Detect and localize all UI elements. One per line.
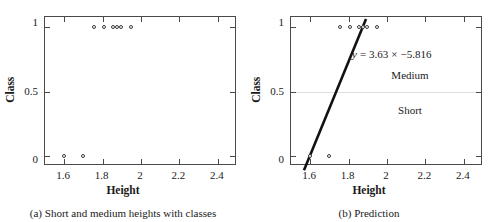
plot-area-b: y=3.63×−5.816 Medium Short <box>290 16 482 165</box>
x-tick-label-a-5: 2.4 <box>210 170 224 181</box>
x-tick-top-a-5 <box>218 17 219 22</box>
y-tick-right-a-05 <box>230 92 235 93</box>
panel-a: Class 1 0.5 0 <box>0 0 246 222</box>
x-tick-top-a-2 <box>103 17 104 22</box>
equation-times: × <box>391 48 397 60</box>
data-point <box>327 154 331 158</box>
x-tick-label-a-3: 2 <box>137 170 143 181</box>
x-tick-label-b-4: 2.2 <box>418 170 432 181</box>
data-point <box>92 25 96 29</box>
regression-line <box>304 19 366 170</box>
panel-b: Class 1 0.5 0 <box>246 0 492 222</box>
region-label-medium: Medium <box>391 70 428 81</box>
y-tick-right-a-1 <box>230 27 235 28</box>
x-tick-label-a-1: 1.6 <box>56 170 70 181</box>
y-tick-a-05 <box>45 92 50 93</box>
x-tick-a-1 <box>64 159 65 164</box>
y-tick-label-a-1: 1 <box>20 17 38 28</box>
x-tick-top-a-3 <box>141 17 142 22</box>
regression-line-svg <box>291 17 481 164</box>
y-tick-a-1 <box>45 27 50 28</box>
panel-b-caption: (b) Prediction <box>246 208 492 219</box>
equation-variable: y <box>352 48 357 60</box>
y-tick-right-a-0 <box>230 156 235 157</box>
x-tick-top-a-4 <box>179 17 180 22</box>
x-tick-a-3 <box>141 159 142 164</box>
y-tick-a-0 <box>45 156 50 157</box>
data-point <box>375 25 379 29</box>
x-tick-label-a-2: 1.8 <box>95 170 109 181</box>
x-tick-a-4 <box>179 159 180 164</box>
regression-equation-label: y=3.63×−5.816 <box>352 49 432 60</box>
figure-container: Class 1 0.5 0 <box>0 0 492 222</box>
data-point <box>62 154 66 158</box>
y-tick-label-b-1: 1 <box>266 17 284 28</box>
x-tick-label-b-1: 1.6 <box>302 170 316 181</box>
data-point <box>308 154 312 158</box>
x-tick-label-b-2: 1.8 <box>341 170 355 181</box>
data-point <box>81 154 85 158</box>
x-tick-label-b-5: 2.4 <box>456 170 470 181</box>
x-tick-label-a-4: 2.2 <box>172 170 186 181</box>
x-axis-title-b: Height <box>246 185 492 197</box>
data-point <box>119 25 123 29</box>
y-tick-label-a-05: 0.5 <box>14 85 38 96</box>
y-tick-label-b-05: 0.5 <box>260 85 284 96</box>
data-point <box>348 25 352 29</box>
y-tick-label-a-0: 0 <box>20 154 38 165</box>
x-tick-label-b-3: 2 <box>383 170 389 181</box>
y-tick-label-b-0: 0 <box>266 154 284 165</box>
data-point <box>129 25 133 29</box>
data-point <box>102 25 106 29</box>
equation-equals: = <box>360 48 366 60</box>
x-tick-a-2 <box>103 159 104 164</box>
x-tick-top-a-1 <box>64 17 65 22</box>
data-point <box>365 25 369 29</box>
plot-area-a <box>44 16 236 165</box>
equation-slope: 3.63 <box>369 48 388 60</box>
x-axis-title-a: Height <box>0 185 246 197</box>
panel-a-caption: (a) Short and medium heights with classe… <box>0 208 246 219</box>
region-label-short: Short <box>398 105 422 116</box>
x-tick-a-5 <box>218 159 219 164</box>
data-point <box>338 25 342 29</box>
equation-intercept: −5.816 <box>401 48 432 60</box>
